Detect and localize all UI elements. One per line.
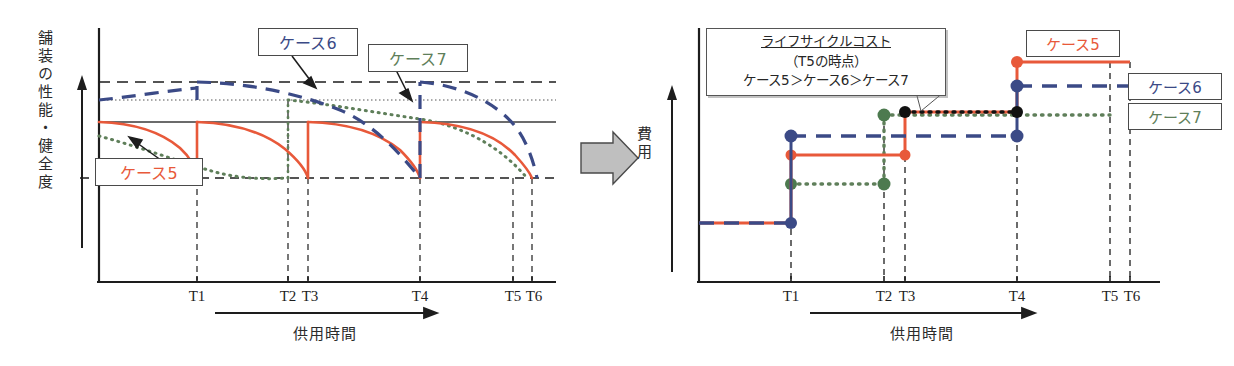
left-time-droplines bbox=[197, 100, 532, 280]
right-arrow-icon bbox=[581, 132, 638, 184]
left-label-case7: ケース7 bbox=[368, 44, 468, 72]
figure-container: 舗装の性能・健全度 ケース5 ケース6 ケース7 T1 T2 T3 T4 T5 … bbox=[0, 0, 1234, 366]
callout-ranking: ケース5＞ケース6＞ケース7 bbox=[715, 71, 937, 91]
right-xtick-t5: T5 bbox=[1102, 288, 1119, 305]
right-series-case6 bbox=[699, 86, 1160, 223]
left-label-case6: ケース6 bbox=[258, 28, 358, 56]
right-xtick-t6: T6 bbox=[1124, 288, 1141, 305]
right-x-axis-label: 供用時間 bbox=[890, 322, 954, 343]
left-xtick-t4: T4 bbox=[412, 288, 429, 305]
right-series-case7-markers bbox=[785, 109, 891, 191]
legend-item-case5-text: ケース5 bbox=[1046, 33, 1100, 54]
right-xtick-t3: T3 bbox=[899, 288, 916, 305]
legend-item-case7-text: ケース7 bbox=[1148, 106, 1202, 127]
legend-item-case6: ケース6 bbox=[1128, 73, 1222, 100]
left-panel-axes bbox=[97, 28, 556, 283]
callout-subtitle: （T5の時点） bbox=[715, 52, 937, 72]
left-x-axis-label: 供用時間 bbox=[293, 322, 357, 343]
lifecycle-cost-callout: ライフサイクルコスト （T5の時点） ケース5＞ケース6＞ケース7 bbox=[706, 28, 946, 96]
left-xtick-t2: T2 bbox=[280, 288, 297, 305]
callout-title: ライフサイクルコスト bbox=[715, 32, 937, 52]
left-xtick-t3: T3 bbox=[302, 288, 319, 305]
left-callout-pointers bbox=[129, 56, 412, 163]
right-xtick-t4: T4 bbox=[1009, 288, 1026, 305]
left-label-case6-text: ケース6 bbox=[279, 30, 336, 54]
right-x-axis-arrow-icon bbox=[810, 308, 1035, 318]
left-y-axis-label: 舗装の性能・健全度 bbox=[36, 30, 52, 192]
left-xtick-t1: T1 bbox=[189, 288, 206, 305]
right-xtick-t2: T2 bbox=[876, 288, 893, 305]
legend-item-case5: ケース5 bbox=[1026, 30, 1120, 57]
legend-item-case7: ケース7 bbox=[1128, 103, 1222, 130]
left-xtick-t6: T6 bbox=[526, 288, 543, 305]
right-series-case7 bbox=[791, 115, 1110, 184]
left-xtick-t5: T5 bbox=[505, 288, 522, 305]
legend-item-case6-text: ケース6 bbox=[1148, 76, 1202, 97]
right-y-axis-label: 費用 bbox=[635, 126, 651, 162]
left-label-case5-text: ケース5 bbox=[120, 160, 177, 184]
right-xtick-t1: T1 bbox=[783, 288, 800, 305]
right-y-axis-arrow-icon bbox=[667, 85, 677, 272]
left-label-case5: ケース5 bbox=[95, 158, 203, 186]
left-label-case7-text: ケース7 bbox=[389, 46, 446, 70]
left-x-axis-arrow-icon bbox=[215, 308, 437, 318]
left-y-axis-arrow-icon bbox=[77, 75, 87, 248]
